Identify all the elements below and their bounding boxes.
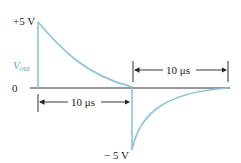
positive-decay-curve (38, 22, 132, 87)
vout-label: Vout (13, 59, 31, 73)
vout-sub: out (20, 64, 31, 73)
negative-decay-curve (132, 88, 228, 150)
dim-top-label: 10 μs (166, 64, 190, 76)
zero-label: 0 (12, 82, 18, 94)
positive-peak-label: +5 V (13, 15, 35, 27)
dim-bottom-label: 10 μs (71, 96, 95, 108)
negative-peak-label: − 5 V (104, 149, 129, 161)
waveform-diagram: 10 μs 10 μs +5 V − 5 V 0 Vout (0, 0, 241, 163)
